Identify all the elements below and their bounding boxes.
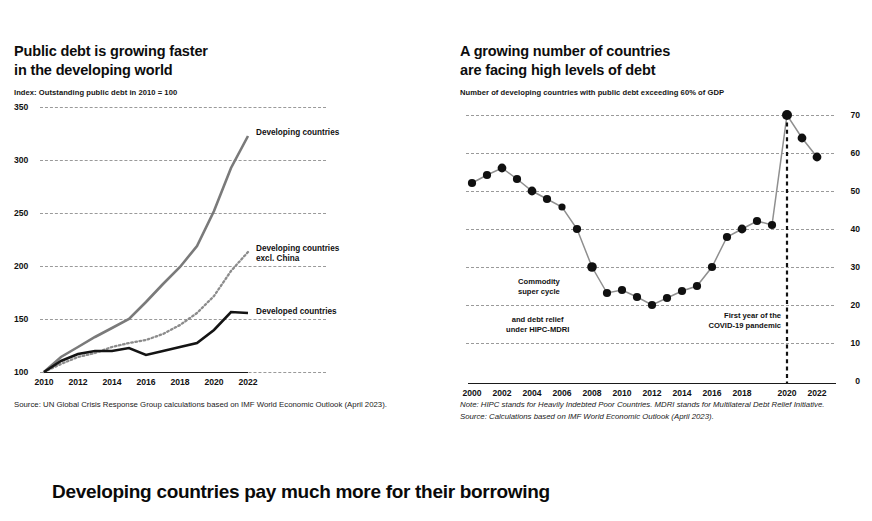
- right-chart-title: A growing number of countries are facing…: [460, 42, 872, 79]
- left-xtick-2010: 2010: [34, 377, 53, 387]
- series-label-developing-excl-china: Developing countries excl. China: [256, 244, 339, 264]
- right-chart-note: Note: HIPC stands for Heavily Indebted P…: [460, 399, 860, 411]
- right-xtick-2002: 2002: [492, 388, 511, 398]
- right-xtick-2000: 2000: [462, 388, 481, 398]
- right-chart-footnotes: Note: HIPC stands for Heavily Indebted P…: [460, 399, 860, 423]
- right-xtick-2010: 2010: [612, 388, 631, 398]
- bottom-banner: Developing countries pay much more for t…: [0, 472, 872, 521]
- left-xtick-2022: 2022: [238, 377, 257, 387]
- annotation-covid-line2: COVID-19 pandemic: [708, 321, 781, 330]
- right-xtick-2014: 2014: [672, 388, 691, 398]
- charts-container: Public debt is growing faster in the dev…: [0, 0, 872, 423]
- annotation-line4: under HIPC-MDRI: [506, 325, 569, 334]
- line-developing-countries: [44, 136, 248, 372]
- left-xtick-2014: 2014: [102, 377, 121, 387]
- left-chart-title-line2: in the developing world: [14, 61, 452, 80]
- series-label-developing: Developing countries: [256, 128, 339, 138]
- right-xtick-2022: 2022: [807, 388, 826, 398]
- left-chart-title: Public debt is growing faster in the dev…: [14, 42, 452, 79]
- right-chart-subtitle: Number of developing countries with publ…: [460, 88, 872, 97]
- right-chart-panel: A growing number of countries are facing…: [452, 0, 872, 423]
- line-developed-countries: [44, 312, 248, 372]
- right-chart-title-line1: A growing number of countries: [460, 42, 872, 61]
- series-label-line2: excl. China: [256, 254, 299, 263]
- left-xtick-2012: 2012: [68, 377, 87, 387]
- left-chart-source: Source: UN Global Crisis Response Group …: [14, 399, 434, 411]
- annotation-covid-first-year: First year of the COVID-19 pandemic: [665, 311, 781, 332]
- left-x-axis: [44, 372, 248, 373]
- right-xtick-2018: 2018: [732, 388, 751, 398]
- annotation-commodity-super-cycle: Commodity super cycle: [518, 277, 560, 298]
- left-chart-subtitle: Index: Outstanding public debt in 2010 =…: [14, 88, 452, 97]
- right-xtick-2006: 2006: [552, 388, 571, 398]
- annotation-line3: and debt relief: [512, 315, 564, 324]
- bottom-banner-heading: Developing countries pay much more for t…: [52, 481, 550, 503]
- left-xtick-2018: 2018: [170, 377, 189, 387]
- annotation-line2: super cycle: [518, 287, 560, 296]
- right-xtick-2012: 2012: [642, 388, 661, 398]
- right-chart-series: [460, 107, 860, 389]
- right-chart-source: Source: Calculations based on IMF World …: [460, 411, 860, 423]
- right-chart-plot: 70 60 50 40 30 20 10 0: [460, 107, 860, 389]
- left-chart-panel: Public debt is growing faster in the dev…: [0, 0, 452, 423]
- right-xtick-2008: 2008: [582, 388, 601, 398]
- right-chart-source-text: Source: Calculations based on IMF World …: [460, 412, 714, 421]
- annotation-line1: Commodity: [518, 277, 560, 286]
- right-x-axis: [468, 383, 836, 384]
- left-chart-plot: 350 300 250 200 150 100 Develo: [14, 107, 434, 385]
- right-chart-note-text: Note: HIPC stands for Heavily Indebted P…: [460, 400, 824, 409]
- right-chart-title-line2: are facing high levels of debt: [460, 61, 872, 80]
- left-xtick-2020: 2020: [204, 377, 223, 387]
- left-chart-lines: [14, 107, 434, 385]
- annotation-covid-line1: First year of the: [724, 311, 781, 320]
- right-xtick-2004: 2004: [522, 388, 541, 398]
- annotation-debt-relief-hipc-mdri: and debt relief under HIPC-MDRI: [506, 315, 569, 336]
- series-label-line1: Developing countries: [256, 244, 339, 253]
- series-label-developed: Developed countries: [256, 307, 337, 317]
- left-xtick-2016: 2016: [136, 377, 155, 387]
- right-xtick-2020: 2020: [777, 388, 796, 398]
- left-chart-title-line1: Public debt is growing faster: [14, 42, 452, 61]
- right-xtick-2016: 2016: [702, 388, 721, 398]
